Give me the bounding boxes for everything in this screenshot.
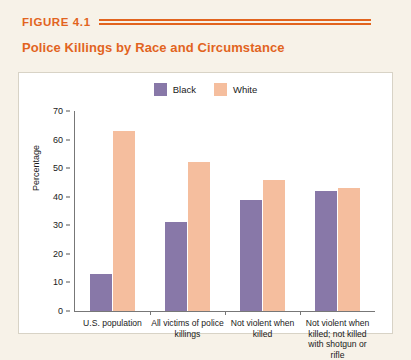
y-axis-labels: 010203040506070 bbox=[19, 111, 71, 311]
y-axis-tick bbox=[66, 168, 70, 169]
y-axis-tick bbox=[66, 253, 70, 254]
y-axis-tick bbox=[66, 282, 70, 283]
y-axis-tick-label: 60 bbox=[53, 135, 63, 145]
figure-label: FIGURE 4.1 bbox=[22, 16, 91, 28]
y-axis-tick-label: 70 bbox=[53, 106, 63, 116]
y-axis-tick-label: 50 bbox=[53, 163, 63, 173]
bar-black[interactable] bbox=[240, 200, 262, 311]
bar-black[interactable] bbox=[90, 274, 112, 311]
y-axis-tick bbox=[66, 111, 70, 112]
bar-white[interactable] bbox=[338, 188, 360, 311]
bar-white[interactable] bbox=[188, 162, 210, 311]
bar-white[interactable] bbox=[113, 131, 135, 311]
legend-item-white: White bbox=[214, 83, 257, 96]
bar-group bbox=[225, 111, 300, 311]
x-axis-tick bbox=[150, 311, 151, 315]
x-axis-category-label: All victims of police killings bbox=[150, 318, 225, 360]
bar-group bbox=[75, 111, 150, 311]
bar-black[interactable] bbox=[315, 191, 337, 311]
bar-black[interactable] bbox=[165, 222, 187, 311]
y-axis-tick-label: 10 bbox=[53, 277, 63, 287]
y-axis-tick-label: 0 bbox=[58, 306, 63, 316]
bar-white[interactable] bbox=[263, 180, 285, 311]
legend-label-black: Black bbox=[173, 84, 196, 95]
bar-groups bbox=[75, 111, 375, 311]
header-rule bbox=[99, 18, 371, 27]
x-axis-category-label: Not violent when killed; not killed with… bbox=[300, 318, 375, 360]
y-axis-tick bbox=[66, 225, 70, 226]
figure-header: FIGURE 4.1 bbox=[22, 14, 391, 30]
y-axis-tick-label: 30 bbox=[53, 220, 63, 230]
legend-swatch-black bbox=[154, 83, 167, 96]
y-axis-tick-label: 20 bbox=[53, 249, 63, 259]
x-axis-tick bbox=[225, 311, 226, 315]
legend-item-black: Black bbox=[154, 83, 196, 96]
x-axis-category-label: U.S. population bbox=[75, 318, 150, 360]
bar-group bbox=[300, 111, 375, 311]
chart-panel: Black White Percentage 010203040506070 U… bbox=[18, 72, 393, 334]
figure-title: Police Killings by Race and Circumstance bbox=[22, 40, 285, 55]
legend-label-white: White bbox=[233, 84, 257, 95]
x-axis-tick bbox=[300, 311, 301, 315]
y-axis-tick bbox=[66, 196, 70, 197]
chart-legend: Black White bbox=[19, 83, 392, 96]
y-axis-tick-label: 40 bbox=[53, 192, 63, 202]
y-axis-tick bbox=[66, 139, 70, 140]
x-axis-category-label: Not violent when killed bbox=[225, 318, 300, 360]
x-axis-labels: U.S. populationAll victims of police kil… bbox=[75, 318, 375, 360]
legend-swatch-white bbox=[214, 83, 227, 96]
y-axis-tick bbox=[66, 311, 70, 312]
bar-group bbox=[150, 111, 225, 311]
